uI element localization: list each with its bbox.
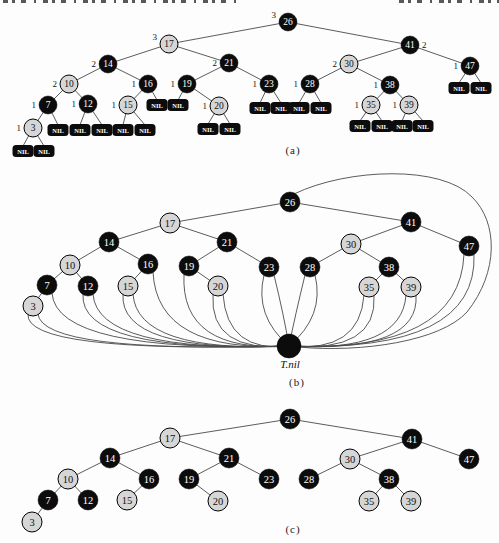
figb-nil-pointer-35-R bbox=[289, 295, 374, 347]
figa-nil-label-20: NIL bbox=[475, 85, 487, 92]
figa-nil-label-8: NIL bbox=[172, 102, 184, 109]
figa-black-height-label-23: 1 bbox=[253, 79, 258, 89]
figb-nil-pointer-12-L bbox=[83, 294, 289, 347]
subfigure-caption-c: (c) bbox=[285, 523, 300, 535]
figb-node-label-47: 47 bbox=[464, 241, 475, 252]
figa-nil-label-13: NIL bbox=[293, 105, 305, 112]
figa-black-height-label-30: 2 bbox=[333, 59, 338, 69]
figb-node-label-30: 30 bbox=[346, 239, 357, 250]
figb-nil-pointer-39-L bbox=[289, 295, 406, 347]
figb-node-label-3: 3 bbox=[30, 301, 35, 312]
figa-black-height-label-3: 1 bbox=[17, 123, 22, 133]
figc-node-label-41: 41 bbox=[407, 434, 418, 445]
figa-black-height-label-26: 3 bbox=[272, 10, 277, 20]
figc-edge-26-41 bbox=[290, 419, 412, 439]
figa-node-label-7: 7 bbox=[46, 100, 51, 110]
figa-nil-label-2: NIL bbox=[52, 127, 64, 134]
figa-nil-label-9: NIL bbox=[202, 126, 214, 133]
figa-nil-label-10: NIL bbox=[224, 126, 236, 133]
figa-black-height-label-10: 2 bbox=[53, 79, 58, 89]
figa-nil-label-18: NIL bbox=[417, 123, 429, 130]
figa-node-label-12: 12 bbox=[83, 99, 93, 109]
figa-node-label-47: 47 bbox=[465, 61, 475, 71]
figa-node-label-19: 19 bbox=[182, 79, 192, 89]
figc-node-label-30: 30 bbox=[345, 454, 356, 465]
figb-nil-pointer-15-R bbox=[133, 294, 289, 347]
figa-black-height-label-16: 1 bbox=[132, 79, 137, 89]
figa-black-height-label-41: 2 bbox=[422, 40, 427, 50]
figa-nil-label-4: NIL bbox=[96, 127, 108, 134]
figa-black-height-label-21: 2 bbox=[213, 58, 218, 68]
figa-node-label-10: 10 bbox=[64, 79, 74, 89]
figc-node-label-19: 19 bbox=[184, 474, 195, 485]
figa-node-label-14: 14 bbox=[103, 59, 113, 69]
figc-node-label-47: 47 bbox=[464, 454, 475, 465]
figb-node-label-14: 14 bbox=[104, 237, 115, 248]
figc-node-label-21: 21 bbox=[224, 453, 235, 464]
figa-node-label-26: 26 bbox=[283, 17, 293, 27]
figa-nil-label-3: NIL bbox=[74, 127, 86, 134]
figa-nil-label-17: NIL bbox=[396, 123, 408, 130]
figb-nil-pointer-39-R bbox=[289, 295, 416, 347]
figc-node-label-3: 3 bbox=[29, 517, 34, 528]
figa-nil-label-19: NIL bbox=[453, 85, 465, 92]
figa-black-height-label-14: 2 bbox=[92, 59, 97, 69]
figc-node-label-14: 14 bbox=[105, 453, 116, 464]
figb-nil-pointer-3-L bbox=[28, 314, 289, 347]
figa-black-height-label-15: 1 bbox=[112, 100, 117, 110]
figa-black-height-label-17: 3 bbox=[153, 32, 158, 42]
figa-black-height-label-38: 1 bbox=[374, 80, 379, 90]
figb-node-label-20: 20 bbox=[213, 281, 224, 292]
figa-black-height-label-35: 1 bbox=[355, 100, 360, 110]
figa-nil-label-6: NIL bbox=[139, 127, 151, 134]
figa-node-label-15: 15 bbox=[123, 100, 133, 110]
figb-edge-26-17 bbox=[170, 202, 290, 223]
figc-node-label-28: 28 bbox=[304, 474, 315, 485]
figa-node-label-20: 20 bbox=[214, 101, 224, 111]
figc-node-label-23: 23 bbox=[264, 474, 275, 485]
figb-node-label-26: 26 bbox=[285, 197, 296, 208]
figb-edge-26-41 bbox=[290, 202, 411, 222]
figc-node-label-7: 7 bbox=[45, 495, 50, 506]
textbook-figure-page: NILNILNILNILNILNILNILNILNILNILNILNILNILN… bbox=[0, 0, 499, 543]
figc-node-label-38: 38 bbox=[384, 474, 395, 485]
subfigure-caption-b: (b) bbox=[289, 376, 305, 388]
figa-nil-label-1: NIL bbox=[38, 148, 50, 155]
figc-node-label-20: 20 bbox=[213, 496, 224, 507]
figa-black-height-label-12: 1 bbox=[72, 99, 77, 109]
figa-node-label-39: 39 bbox=[404, 100, 414, 110]
figa-black-height-label-7: 1 bbox=[32, 100, 37, 110]
figa-node-label-35: 35 bbox=[366, 100, 376, 110]
tnil-label: T.nil bbox=[280, 358, 300, 370]
figb-node-label-12: 12 bbox=[83, 281, 94, 292]
figb-node-label-38: 38 bbox=[384, 262, 395, 273]
figa-black-height-label-20: 1 bbox=[203, 101, 208, 111]
figa-node-label-21: 21 bbox=[224, 58, 234, 68]
figc-node-label-35: 35 bbox=[364, 496, 375, 507]
figc-node-label-39: 39 bbox=[406, 496, 417, 507]
figa-edge-41-47 bbox=[410, 45, 470, 66]
figc-node-label-10: 10 bbox=[63, 474, 74, 485]
figa-nil-label-16: NIL bbox=[376, 123, 388, 130]
figa-black-height-label-28: 1 bbox=[294, 79, 299, 89]
figc-node-label-17: 17 bbox=[165, 433, 176, 444]
figa-node-label-23: 23 bbox=[264, 79, 274, 89]
figa-edge-26-17 bbox=[169, 22, 288, 44]
figc-edge-26-17 bbox=[170, 419, 290, 438]
figb-tnil-node bbox=[277, 334, 301, 358]
figb-node-label-19: 19 bbox=[184, 261, 195, 272]
figb-node-label-35: 35 bbox=[364, 282, 375, 293]
figb-node-label-28: 28 bbox=[305, 262, 316, 273]
figb-node-label-10: 10 bbox=[65, 260, 76, 271]
figc-node-label-15: 15 bbox=[122, 495, 133, 506]
red-black-tree-diagram: NILNILNILNILNILNILNILNILNILNILNILNILNILN… bbox=[0, 0, 499, 543]
figa-node-label-3: 3 bbox=[31, 123, 36, 133]
figb-node-label-15: 15 bbox=[123, 281, 134, 292]
figa-nil-label-14: NIL bbox=[315, 105, 327, 112]
figb-node-label-23: 23 bbox=[264, 262, 275, 273]
figa-nil-label-5: NIL bbox=[117, 127, 129, 134]
figa-node-label-17: 17 bbox=[164, 39, 174, 49]
figb-node-label-16: 16 bbox=[143, 259, 154, 270]
figa-node-label-41: 41 bbox=[405, 40, 415, 50]
figa-nil-label-0: NIL bbox=[17, 148, 29, 155]
